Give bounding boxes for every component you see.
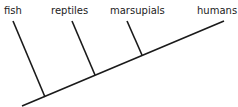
label-reptiles: reptiles bbox=[51, 5, 88, 16]
branch-marsupials bbox=[127, 21, 142, 55]
cladogram: fish reptiles marsupials humans bbox=[0, 0, 238, 107]
label-fish: fish bbox=[4, 5, 22, 16]
branch-fish bbox=[13, 21, 45, 97]
label-marsupials: marsupials bbox=[110, 5, 165, 16]
branch-reptiles bbox=[72, 21, 95, 75]
main-trunk-line bbox=[22, 21, 224, 106]
label-humans: humans bbox=[197, 5, 237, 16]
